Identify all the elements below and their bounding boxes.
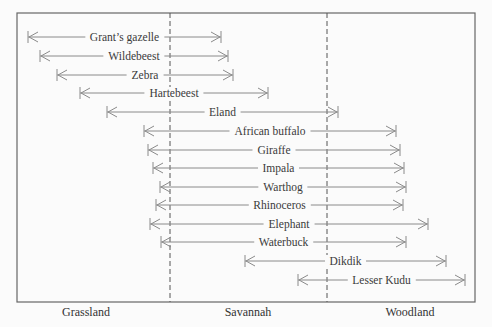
species-label: Eland — [204, 106, 241, 118]
species-label: Grant’s gazelle — [85, 31, 164, 43]
zone-label: Savannah — [225, 305, 272, 320]
zone-label: Woodland — [385, 305, 434, 320]
species-label: Warthog — [258, 181, 307, 193]
species-label: Impala — [258, 162, 300, 174]
species-label: Giraffe — [253, 144, 296, 156]
species-label: Dikdik — [325, 255, 367, 267]
species-label: Elephant — [264, 218, 315, 230]
habitat-range-diagram — [0, 0, 492, 327]
species-label: Wildebeest — [103, 50, 164, 62]
species-label: Rhinoceros — [248, 199, 310, 211]
species-label: Zebra — [127, 69, 164, 81]
species-label: African buffalo — [230, 125, 311, 137]
species-label: Waterbuck — [254, 236, 314, 248]
species-label: Hartebeest — [144, 87, 203, 99]
zone-label: Grassland — [62, 305, 110, 320]
species-label: Lesser Kudu — [347, 274, 415, 286]
